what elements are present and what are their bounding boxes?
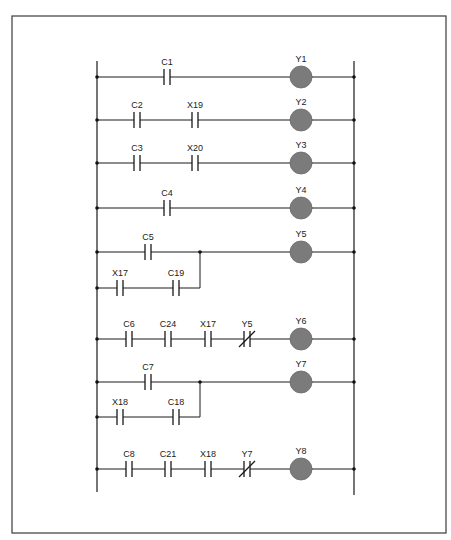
rungs-group: C1Y1C2X19Y2C3X20Y3C4Y4C5Y5X17C19C6C24X17…: [95, 54, 356, 480]
coil-icon: [290, 66, 312, 88]
no-contact-x19: X19: [187, 100, 203, 128]
junction-dot: [198, 250, 202, 254]
contact-label: C18: [168, 397, 185, 407]
contact-label: C7: [142, 362, 154, 372]
output-coil-y7: Y7: [290, 359, 312, 393]
coil-icon: [290, 197, 312, 219]
output-coil-y5: Y5: [290, 229, 312, 263]
coil-icon: [290, 371, 312, 393]
junction-dot: [95, 206, 99, 210]
no-contact-c3: C3: [131, 143, 143, 171]
no-contact-x18: X18: [200, 449, 216, 477]
coil-icon: [290, 152, 312, 174]
contact-label: Y7: [241, 449, 252, 459]
junction-dot: [352, 337, 356, 341]
contact-label: X17: [112, 268, 128, 278]
junction-dot: [198, 380, 202, 384]
rung-y6: C6C24X17Y5Y6: [95, 316, 356, 350]
coil-label: Y7: [295, 359, 306, 369]
junction-dot: [95, 467, 99, 471]
contact-label: Y5: [241, 319, 252, 329]
output-coil-y2: Y2: [290, 97, 312, 131]
contact-label: C3: [131, 143, 143, 153]
coil-label: Y2: [295, 97, 306, 107]
junction-dot: [95, 161, 99, 165]
junction-dot: [352, 75, 356, 79]
output-coil-y3: Y3: [290, 140, 312, 174]
contact-label: C5: [142, 232, 154, 242]
junction-dot: [352, 206, 356, 210]
ladder-diagram: C1Y1C2X19Y2C3X20Y3C4Y4C5Y5X17C19C6C24X17…: [0, 0, 451, 540]
rung-y8: C8C21X18Y7Y8: [95, 446, 356, 480]
junction-dot: [95, 118, 99, 122]
no-contact-c8: C8: [123, 449, 135, 477]
no-contact-c18: C18: [168, 397, 185, 425]
contact-label: X17: [200, 319, 216, 329]
output-coil-y1: Y1: [290, 54, 312, 88]
contact-label: X20: [187, 143, 203, 153]
parallel-branch: X17C19: [95, 250, 202, 296]
rung-y1: C1Y1: [95, 54, 356, 88]
no-contact-c5: C5: [142, 232, 154, 260]
no-contact-x18: X18: [112, 397, 128, 425]
coil-label: Y4: [295, 185, 306, 195]
coil-icon: [290, 328, 312, 350]
contact-label: X18: [200, 449, 216, 459]
junction-dot: [352, 118, 356, 122]
no-contact-x20: X20: [187, 143, 203, 171]
coil-icon: [290, 241, 312, 263]
output-coil-y4: Y4: [290, 185, 312, 219]
no-contact-c1: C1: [161, 57, 173, 85]
coil-label: Y8: [295, 446, 306, 456]
no-contact-c2: C2: [131, 100, 143, 128]
contact-label: C6: [123, 319, 135, 329]
contact-label: X18: [112, 397, 128, 407]
no-contact-c7: C7: [142, 362, 154, 390]
output-coil-y6: Y6: [290, 316, 312, 350]
rung-y2: C2X19Y2: [95, 97, 356, 131]
rung-y7: C7Y7X18C18: [95, 359, 356, 425]
coil-label: Y5: [295, 229, 306, 239]
junction-dot: [95, 380, 99, 384]
junction-dot: [352, 161, 356, 165]
diagram-frame: [12, 16, 446, 533]
no-contact-c6: C6: [123, 319, 135, 347]
coil-label: Y3: [295, 140, 306, 150]
junction-dot: [95, 75, 99, 79]
coil-icon: [290, 458, 312, 480]
junction-dot: [352, 250, 356, 254]
rung-y4: C4Y4: [95, 185, 356, 219]
no-contact-c24: C24: [160, 319, 177, 347]
contact-label: C19: [168, 268, 185, 278]
junction-dot: [352, 380, 356, 384]
no-contact-c4: C4: [161, 188, 173, 216]
contact-label: C2: [131, 100, 143, 110]
no-contact-x17: X17: [200, 319, 216, 347]
contact-label: C4: [161, 188, 173, 198]
contact-label: C24: [160, 319, 177, 329]
rung-y5: C5Y5X17C19: [95, 229, 356, 296]
junction-dot: [95, 250, 99, 254]
no-contact-c21: C21: [160, 449, 177, 477]
no-contact-c19: C19: [168, 268, 185, 296]
junction-dot: [95, 337, 99, 341]
contact-label: C1: [161, 57, 173, 67]
nc-contact-y5: Y5: [239, 319, 255, 347]
parallel-branch: X18C18: [95, 380, 202, 425]
junction-dot: [352, 467, 356, 471]
output-coil-y8: Y8: [290, 446, 312, 480]
coil-label: Y6: [295, 316, 306, 326]
contact-label: C21: [160, 449, 177, 459]
contact-label: C8: [123, 449, 135, 459]
nc-contact-y7: Y7: [239, 449, 255, 477]
coil-label: Y1: [295, 54, 306, 64]
no-contact-x17: X17: [112, 268, 128, 296]
coil-icon: [290, 109, 312, 131]
contact-label: X19: [187, 100, 203, 110]
rung-y3: C3X20Y3: [95, 140, 356, 174]
